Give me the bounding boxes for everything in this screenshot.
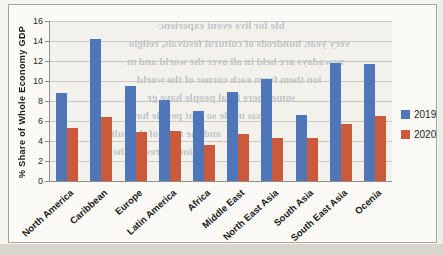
page-margin-bottom — [0, 244, 443, 255]
y-tick-label: 14 — [17, 36, 43, 46]
legend-swatch-icon — [401, 130, 410, 139]
legend-item-2019: 2019 — [401, 109, 436, 120]
bar-2019-south-east-asia — [330, 63, 341, 181]
bar-2019-caribbean — [90, 39, 101, 181]
y-tick-label: 2 — [17, 156, 43, 166]
bar-2020-middle-east — [238, 134, 249, 181]
chart-frame: ble for live event experiencvery year, h… — [8, 4, 437, 243]
gridline — [50, 101, 392, 102]
bar-2020-latin-america — [170, 131, 181, 181]
y-tick-label: 4 — [17, 136, 43, 146]
bar-2019-ocenia — [364, 64, 375, 181]
bar-2019-north-east-asia — [261, 79, 272, 181]
y-tick-label: 0 — [17, 176, 43, 186]
y-tick-label: 8 — [17, 96, 43, 106]
bar-2019-north-america — [56, 93, 67, 181]
bar-2019-latin-america — [159, 100, 170, 181]
bar-2019-middle-east — [227, 92, 238, 181]
bar-2019-south-asia — [296, 115, 307, 181]
bar-2019-europe — [125, 86, 136, 181]
gridline — [50, 61, 392, 62]
bar-2020-africa — [204, 145, 215, 181]
y-tick-label: 16 — [17, 16, 43, 26]
bar-2020-caribbean — [101, 117, 112, 181]
gridline — [50, 41, 392, 42]
bar-2020-north-east-asia — [272, 138, 283, 181]
legend-label: 2019 — [414, 109, 436, 120]
bar-2020-south-east-asia — [341, 124, 352, 181]
legend-swatch-icon — [401, 110, 410, 119]
legend-label: 2020 — [414, 129, 436, 140]
gridline — [50, 21, 392, 22]
bar-2020-south-asia — [307, 138, 318, 181]
bar-2019-africa — [193, 111, 204, 181]
plot-area — [49, 21, 392, 182]
bar-2020-north-america — [67, 128, 78, 181]
page-margin-right — [438, 0, 443, 244]
y-tick-label: 12 — [17, 56, 43, 66]
legend-item-2020: 2020 — [401, 129, 436, 140]
y-tick-label: 10 — [17, 76, 43, 86]
bar-2020-ocenia — [375, 116, 386, 181]
bar-2020-europe — [136, 132, 147, 181]
gridline — [50, 81, 392, 82]
y-tick-label: 6 — [17, 116, 43, 126]
legend: 20192020 — [401, 109, 436, 149]
